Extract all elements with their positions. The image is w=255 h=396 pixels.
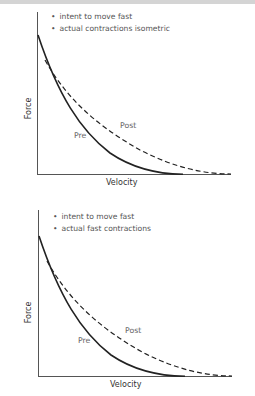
pre-curve: [39, 236, 185, 376]
x-axis-label: Velocity: [106, 178, 137, 187]
y-axis-label: Force: [24, 302, 33, 324]
post-curve: [45, 60, 231, 174]
pre-label: Pre: [74, 131, 86, 140]
y-axis-label: Force: [24, 98, 33, 120]
annotation-item: intent to move fast: [53, 211, 151, 223]
pre-label: Pre: [78, 336, 90, 345]
post-curve: [47, 261, 232, 376]
x-axis-label: Velocity: [110, 380, 141, 389]
pre-curve: [38, 35, 183, 174]
annotation-item: intent to move fast: [51, 11, 170, 23]
chart-isometric: intent to move fast actual contractions …: [0, 0, 255, 196]
annotation-item: actual fast contractions: [53, 223, 151, 235]
chart-fast: intent to move fast actual fast contract…: [0, 196, 255, 396]
annotation-list: intent to move fast actual contractions …: [51, 11, 170, 35]
post-label: Post: [120, 121, 136, 130]
post-label: Post: [125, 326, 141, 335]
annotation-item: actual contractions isometric: [51, 23, 170, 35]
annotation-list: intent to move fast actual fast contract…: [53, 211, 151, 235]
